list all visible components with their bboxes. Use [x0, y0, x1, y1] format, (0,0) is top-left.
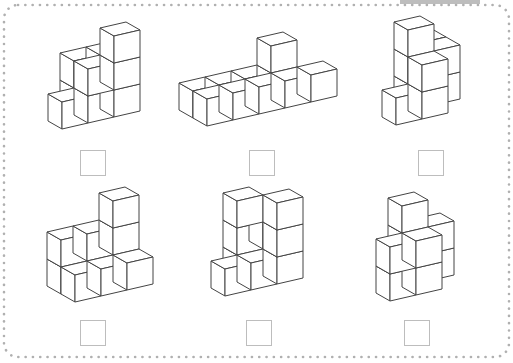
- answer-box-2[interactable]: [249, 150, 275, 176]
- answer-box-5[interactable]: [246, 320, 272, 346]
- cube: [402, 227, 442, 268]
- cube: [257, 32, 297, 73]
- figures-canvas: [0, 0, 513, 363]
- figure-6: [376, 192, 454, 301]
- cube: [408, 51, 448, 92]
- figure-3: [382, 16, 460, 125]
- figure-2: [179, 32, 337, 126]
- cube: [297, 61, 337, 102]
- cube: [394, 16, 434, 57]
- figure-4: [47, 187, 153, 302]
- answer-box-1[interactable]: [80, 150, 106, 176]
- cube: [223, 187, 263, 228]
- answer-box-3[interactable]: [418, 150, 444, 176]
- worksheet: [0, 0, 513, 363]
- figure-1: [48, 22, 140, 129]
- cube: [100, 22, 140, 63]
- cube: [263, 189, 303, 230]
- cube: [99, 187, 139, 228]
- figure-5: [211, 187, 303, 296]
- cube: [113, 249, 153, 290]
- cube: [388, 192, 428, 233]
- answer-box-4[interactable]: [80, 320, 106, 346]
- answer-box-6[interactable]: [404, 320, 430, 346]
